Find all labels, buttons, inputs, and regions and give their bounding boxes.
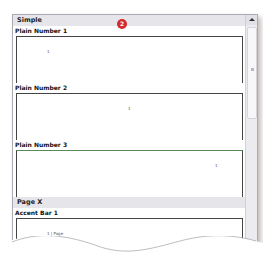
scroll-up-button[interactable] <box>246 15 257 25</box>
callout-badge: 2 <box>117 19 127 29</box>
page-number-mark: 1 <box>128 106 131 111</box>
scroll-thumb[interactable] <box>247 27 257 119</box>
gallery-item-plain-number-2[interactable]: 1 <box>16 93 243 140</box>
gallery-item-label: Accent Bar 1 <box>13 208 245 218</box>
page-number-mark: 1 <box>215 163 218 168</box>
gallery-item-plain-number-3[interactable]: 1 <box>16 150 243 197</box>
gallery-item-label: Plain Number 1 <box>13 26 245 36</box>
section-header-page-x: Page X <box>13 197 245 208</box>
page-number-mark: 1 <box>47 49 50 54</box>
gallery-content: Simple Plain Number 1 1 Plain Number 2 1… <box>13 15 245 255</box>
vertical-scrollbar[interactable] <box>245 15 257 255</box>
gallery-item-label: Plain Number 3 <box>13 140 245 150</box>
page-number-gallery-panel: Simple Plain Number 1 1 Plain Number 2 1… <box>12 14 258 256</box>
grip-icon <box>251 68 254 71</box>
section-header-simple: Simple <box>13 15 245 26</box>
gallery-item-plain-number-1[interactable]: 1 <box>16 36 243 83</box>
torn-edge-decoration <box>0 236 263 268</box>
gallery-item-label: Plain Number 2 <box>13 83 245 93</box>
